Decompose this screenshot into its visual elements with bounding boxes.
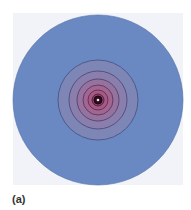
core-dot (97, 99, 100, 102)
rings-group (13, 15, 183, 185)
concentric-density-diagram (0, 0, 191, 210)
figure-label: (a) (12, 193, 25, 205)
